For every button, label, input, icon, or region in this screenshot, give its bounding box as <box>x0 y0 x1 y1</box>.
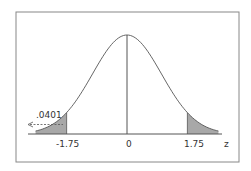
axis-label-z: z <box>224 139 229 149</box>
tick-label-pos: 1.75 <box>184 139 204 149</box>
tick-label-neg: -1.75 <box>56 139 79 149</box>
area-label: .0401 <box>36 110 62 120</box>
normal-curve-chart: .0401 -1.75 0 1.75 z <box>0 0 251 171</box>
right-tail-shading <box>187 113 218 134</box>
tick-label-zero: 0 <box>126 139 132 149</box>
